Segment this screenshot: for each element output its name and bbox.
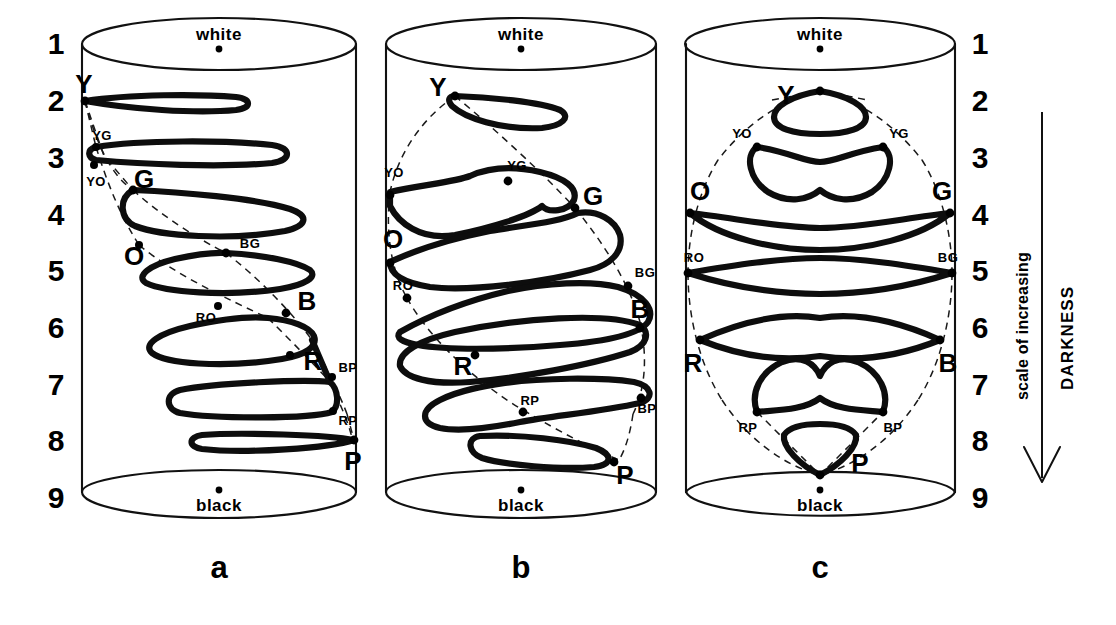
left-scale-number-6: 6 bbox=[48, 311, 65, 344]
panel-a-node-bg bbox=[222, 249, 231, 258]
left-scale-number-8: 8 bbox=[48, 424, 65, 457]
panel-c-label-g: G bbox=[932, 176, 952, 206]
panel-b-label-bp: BP bbox=[638, 401, 657, 416]
panel-a-label-r: R bbox=[304, 346, 323, 376]
darkness-axis: scale of increasing DARKNESS bbox=[1014, 112, 1077, 482]
panel-c-label-bg: BG bbox=[938, 250, 958, 265]
panel-a-hue-nodes bbox=[81, 97, 359, 445]
panel-b-label-o: O bbox=[383, 224, 403, 254]
panel-c-loop-ro-bg bbox=[688, 258, 952, 294]
panel-c-node-yg bbox=[879, 143, 888, 152]
panel-c-node-b bbox=[936, 336, 945, 345]
panel-c-white-point bbox=[817, 46, 824, 53]
panel-b-label-ro: RO bbox=[393, 278, 413, 293]
panel-c-label-y: Y bbox=[777, 80, 794, 110]
left-scale-number-7: 7 bbox=[48, 368, 65, 401]
panel-a-loop-y bbox=[85, 95, 248, 111]
panel-a-node-rp bbox=[329, 407, 337, 415]
panel-a-label-y: Y bbox=[75, 69, 92, 99]
panel-b-white-label: white bbox=[497, 25, 544, 44]
panel-a-black-point bbox=[216, 487, 223, 494]
panel-b-node-rp bbox=[519, 408, 528, 417]
panel-a-white-label: white bbox=[195, 25, 242, 44]
panel-a-node-b bbox=[282, 309, 291, 318]
panel-a-loop-p bbox=[192, 434, 355, 451]
panel-a-loop-bg-ro bbox=[142, 253, 312, 293]
panel-c-label-ro: RO bbox=[684, 250, 704, 265]
left-scale-number-9: 9 bbox=[48, 481, 65, 514]
right-scale-number-8: 8 bbox=[972, 424, 989, 457]
panel-b: white black bbox=[383, 18, 657, 585]
panel-c-hue-labels: Y YO YG O G RO BG R B RP BP P bbox=[684, 80, 959, 478]
left-scale-number-4: 4 bbox=[48, 198, 65, 231]
darkness-axis-label-line1: scale of increasing bbox=[1014, 252, 1031, 400]
panel-b-label-g: G bbox=[583, 181, 603, 211]
panel-c-loop-yo-yg bbox=[750, 147, 890, 199]
left-scale-number-3: 3 bbox=[48, 141, 65, 174]
left-scale-number-1: 1 bbox=[48, 27, 65, 60]
panel-a-hue-loops bbox=[85, 95, 354, 451]
panel-a-node-r bbox=[286, 351, 294, 359]
panel-b-node-b bbox=[636, 324, 645, 333]
right-scale-number-2: 2 bbox=[972, 84, 989, 117]
panel-c-node-yo bbox=[753, 143, 762, 152]
panel-a-node-yo bbox=[90, 161, 98, 169]
panel-a-label-bg: BG bbox=[240, 236, 260, 251]
panel-c-label-bp: BP bbox=[884, 420, 903, 435]
panel-c-label-p: P bbox=[851, 448, 868, 478]
panel-b-node-yo bbox=[386, 191, 395, 200]
panel-a-node-p bbox=[350, 436, 359, 445]
panel-c-label-yg: YG bbox=[889, 126, 909, 141]
panel-a-label-g: G bbox=[134, 164, 154, 194]
panel-c-node-y bbox=[816, 87, 825, 96]
panel-b-label-r: R bbox=[454, 351, 473, 381]
left-scale-numbers: 1 2 3 4 5 6 7 8 9 bbox=[48, 27, 65, 514]
panel-a-node-yg bbox=[92, 143, 100, 151]
panel-a-label-ro: RO bbox=[196, 310, 216, 325]
right-scale-number-1: 1 bbox=[972, 27, 989, 60]
panel-b-caption: b bbox=[512, 550, 531, 585]
panel-b-black-point bbox=[518, 487, 525, 494]
panel-b-loop-rp-p bbox=[470, 436, 608, 468]
panel-b-node-o bbox=[386, 259, 395, 268]
panel-c-white-label: white bbox=[796, 25, 843, 44]
panel-a-label-b: B bbox=[298, 286, 317, 316]
panel-a-label-rp: RP bbox=[339, 413, 358, 428]
panel-b-label-yo: YO bbox=[384, 165, 404, 180]
panel-a-white-point bbox=[216, 46, 223, 53]
panel-a-loop-g-o bbox=[123, 190, 304, 236]
right-scale-number-9: 9 bbox=[972, 481, 989, 514]
panel-c-loop-r-b bbox=[700, 316, 940, 358]
panel-c-label-r: R bbox=[684, 348, 703, 378]
right-scale-number-3: 3 bbox=[972, 141, 989, 174]
panel-b-white-point bbox=[518, 46, 525, 53]
panel-b-node-yg bbox=[504, 177, 513, 186]
panel-c-label-yo: YO bbox=[732, 126, 752, 141]
panel-a-node-ro bbox=[214, 302, 222, 310]
panel-a-label-bp: BP bbox=[339, 360, 358, 375]
right-scale-number-6: 6 bbox=[972, 311, 989, 344]
panel-c-node-r bbox=[696, 336, 705, 345]
panel-b-node-y bbox=[451, 92, 460, 101]
panel-c-black-point bbox=[817, 487, 824, 494]
left-scale-number-2: 2 bbox=[48, 84, 65, 117]
left-scale-number-5: 5 bbox=[48, 254, 65, 287]
panel-b-node-ro bbox=[403, 294, 412, 303]
right-scale-numbers: 1 2 3 4 5 6 7 8 9 bbox=[972, 27, 989, 514]
panel-c-node-ro bbox=[684, 269, 693, 278]
figure-canvas: 1 2 3 4 5 6 7 8 9 white black bbox=[0, 0, 1116, 625]
panel-b-loop-y bbox=[449, 96, 565, 128]
panel-c-node-bp bbox=[879, 408, 888, 417]
panel-b-label-bg: BG bbox=[635, 265, 655, 280]
panel-b-label-b: B bbox=[631, 294, 650, 324]
panel-c-loop-o-g bbox=[690, 213, 950, 250]
panel-a-black-label: black bbox=[196, 496, 242, 515]
panel-c-caption: c bbox=[811, 550, 828, 585]
panel-a-loop-yg-yo bbox=[89, 141, 287, 165]
panel-c-node-p bbox=[816, 471, 825, 480]
panel-c-node-bg bbox=[948, 269, 957, 278]
panel-a-label-yo: YO bbox=[86, 174, 106, 189]
panel-a: white black bbox=[75, 18, 361, 585]
panel-c: white black bbox=[684, 18, 959, 585]
right-scale-number-7: 7 bbox=[972, 368, 989, 401]
